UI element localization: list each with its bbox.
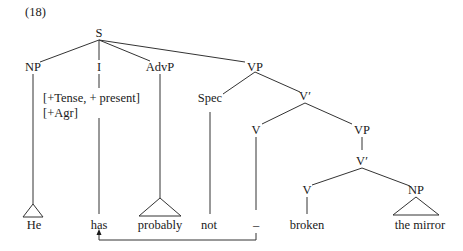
example-number: (18) <box>25 5 46 19</box>
branches-s <box>40 40 245 62</box>
syntax-tree: (18) S NP I A <box>0 0 463 251</box>
node-vp-lower: VP <box>354 123 370 137</box>
leaf-not: not <box>201 218 218 232</box>
leaf-probably: probably <box>138 218 183 232</box>
node-vbar-top: V′ <box>299 89 311 103</box>
node-i: I <box>97 60 101 74</box>
node-s: S <box>96 26 103 40</box>
node-vbar-lower: V′ <box>356 154 368 168</box>
leaf-trace: – <box>252 218 260 232</box>
branches-vp-top <box>223 72 300 94</box>
feature-tense: [+Tense, + present] <box>43 91 140 105</box>
np-subject-triangle <box>23 204 43 217</box>
node-advp: AdvP <box>146 60 175 74</box>
leaf-broken: broken <box>290 218 325 232</box>
branches-vbar-top <box>262 103 352 124</box>
node-np-subject: NP <box>25 60 41 74</box>
leaf-the-mirror: the mirror <box>395 218 446 232</box>
node-spec: Spec <box>198 91 223 105</box>
feature-agr: [+Agr] <box>43 106 78 120</box>
branches-vbar-lower <box>312 168 410 186</box>
node-v-lower: V <box>302 183 311 197</box>
node-np-object: NP <box>408 183 424 197</box>
node-v-top: V <box>251 123 260 137</box>
node-vp-top: VP <box>247 60 263 74</box>
np-object-triangle <box>393 197 439 215</box>
leaf-has: has <box>91 218 108 232</box>
leaf-he: He <box>27 218 42 232</box>
advp-triangle <box>139 198 181 216</box>
